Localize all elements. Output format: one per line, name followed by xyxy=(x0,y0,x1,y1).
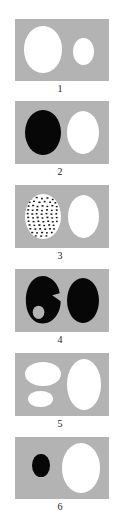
large-black-ellipse-right xyxy=(67,278,99,323)
panel-label-1: 1 xyxy=(0,84,120,94)
panel-label-5: 5 xyxy=(0,419,120,429)
large-white-ellipse-left xyxy=(24,26,62,73)
panel-group-1: 1 xyxy=(0,19,120,95)
small-white-ellipse-right xyxy=(73,38,94,65)
small-black-ellipse-left xyxy=(32,454,50,478)
notched-blob-icon xyxy=(24,275,63,325)
large-white-ellipse-right xyxy=(68,195,99,238)
notched-black-blob-left xyxy=(24,275,63,325)
large-black-ellipse-left xyxy=(25,110,61,155)
panel-label-6: 6 xyxy=(0,502,120,512)
panel-label-4: 4 xyxy=(0,335,120,345)
panel-label-3: 3 xyxy=(0,251,120,261)
stipple-pattern-icon xyxy=(25,194,61,239)
panel-background-3 xyxy=(15,185,109,248)
panel-background-5 xyxy=(15,353,109,416)
panel-group-2: 2 xyxy=(0,101,120,177)
panel-group-4: 4 xyxy=(0,269,120,345)
panel-label-2: 2 xyxy=(0,167,120,177)
panel-group-5: 5 xyxy=(0,353,120,429)
panel-group-3: 3 xyxy=(0,185,120,261)
panel-background-1 xyxy=(15,19,109,81)
panel-background-6 xyxy=(15,437,109,499)
large-white-ellipse-right xyxy=(67,359,101,409)
wide-white-ellipse-upper-left xyxy=(25,362,61,386)
figure-panel-stack: 1 2 xyxy=(0,0,120,531)
panel-background-2 xyxy=(15,101,109,164)
large-white-ellipse-right xyxy=(62,443,100,493)
small-white-ellipse-lower-left xyxy=(28,391,52,407)
large-white-ellipse-right xyxy=(67,111,99,154)
panel-group-6: 6 xyxy=(0,437,120,513)
panel-background-4 xyxy=(15,269,109,332)
stippled-ellipse-left xyxy=(25,194,61,239)
